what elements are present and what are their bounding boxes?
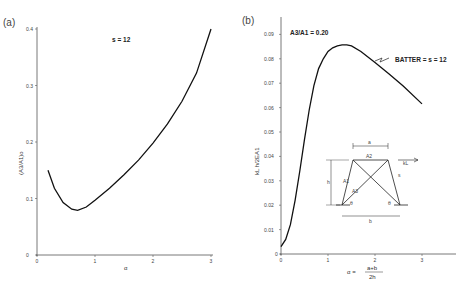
- x-tick-label: 0: [280, 257, 283, 263]
- y-tick-label: 0.04: [264, 153, 274, 159]
- y-tick-label: 0.08: [264, 56, 274, 62]
- frame-diagram-labels: aA2kLshA1A3θθb: [327, 139, 409, 224]
- y-tick-label: 0.01: [264, 227, 274, 233]
- data-line-b: [281, 45, 422, 247]
- y-tick-label: 0.07: [264, 80, 274, 86]
- x-tick-label: 2: [374, 257, 377, 263]
- data-line-a: [48, 29, 211, 210]
- x-tick-label: 1: [94, 258, 97, 264]
- y-tick-label: 0: [275, 251, 278, 257]
- chart-a: (a) 012300.10.20.30.4 s = 12 α (A3/A1)o: [3, 17, 213, 271]
- y-tick-label: 0.4: [26, 26, 33, 32]
- y-axis-label-a: (A3/A1)o: [18, 151, 24, 175]
- y-tick-label: 0.06: [264, 105, 274, 111]
- ticks-b: 012300.010.020.030.040.050.060.070.080.0…: [264, 31, 424, 263]
- diagram-label: A2: [366, 153, 372, 159]
- diagram-label: θ: [388, 200, 391, 206]
- panel-label-b: (b): [242, 15, 254, 26]
- y-tick-label: 0.09: [264, 31, 274, 37]
- y-tick-label: 0.1: [26, 196, 33, 202]
- chart-b: (b) 012300.010.020.030.040.050.060.070.0…: [242, 15, 456, 280]
- series-label-b: BATTER = s = 12: [395, 56, 447, 63]
- diagram-label: a: [368, 139, 371, 145]
- panel-label-a: (a): [3, 17, 15, 28]
- y-tick-label: 0.03: [264, 178, 274, 184]
- diagram-label: A3: [352, 188, 358, 194]
- series-leader-line: [375, 58, 389, 62]
- diagram-label: s: [398, 172, 401, 178]
- y-tick-label: 0: [26, 252, 29, 258]
- y-tick-label: 0.02: [264, 202, 274, 208]
- x-tick-label: 1: [327, 257, 330, 263]
- ticks-a: 012300.10.20.30.4: [26, 26, 213, 264]
- x-axis-label-den-b: 2h: [369, 274, 376, 280]
- x-tick-label: 0: [36, 258, 39, 264]
- chart-figure: (a) 012300.10.20.30.4 s = 12 α (A3/A1)o …: [0, 0, 469, 289]
- diagram-label: b: [369, 218, 372, 224]
- y-axis-label-b: kL h/2EA1: [254, 147, 260, 175]
- annotation-b: A3/A1 = 0.20: [290, 29, 329, 36]
- diagram-label: A1: [343, 178, 349, 184]
- x-axis-label-num-b: a+b: [367, 265, 378, 271]
- y-tick-label: 0.2: [26, 139, 33, 145]
- y-tick-label: 0.3: [26, 83, 33, 89]
- x-tick-label: 3: [421, 257, 424, 263]
- diagram-label: kL: [403, 160, 409, 166]
- annotation-a: s = 12: [112, 36, 131, 43]
- x-tick-label: 3: [210, 258, 213, 264]
- diagram-label: θ: [350, 200, 353, 206]
- x-axis-label-a: α: [124, 265, 128, 271]
- diagram-label: h: [327, 179, 330, 185]
- x-axis-label-prefix-b: α =: [347, 269, 356, 275]
- y-tick-label: 0.05: [264, 129, 274, 135]
- x-tick-label: 2: [152, 258, 155, 264]
